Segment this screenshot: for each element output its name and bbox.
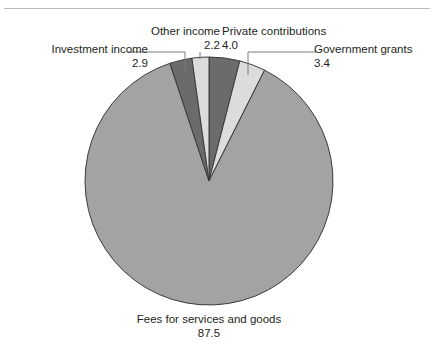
pie-chart-figure: Investment income 2.9 Other income 2.2 P…	[0, 0, 434, 358]
slice-label-fees-value: 87.5	[109, 327, 309, 341]
slice-label-government-grants-name: Government grants	[314, 43, 432, 57]
slice-label-fees-name: Fees for services and goods	[109, 313, 309, 327]
slice-label-other-income-name: Other income	[140, 25, 220, 39]
slice-label-government-grants-value: 3.4	[314, 57, 432, 71]
slice-label-private-contributions-name: Private contributions	[222, 25, 342, 39]
slice-label-investment-income-value: 2.9	[24, 57, 148, 71]
slice-label-investment-income-name: Investment income	[24, 43, 148, 57]
slice-label-government-grants: Government grants 3.4	[314, 43, 432, 70]
slice-label-investment-income: Investment income 2.9	[24, 43, 148, 70]
slice-label-fees-for-services-and-goods: Fees for services and goods 87.5	[109, 313, 309, 340]
slice-label-other-income: Other income 2.2	[140, 25, 220, 52]
pie-slice-group	[85, 57, 333, 305]
slice-label-other-income-value: 2.2	[140, 39, 220, 53]
